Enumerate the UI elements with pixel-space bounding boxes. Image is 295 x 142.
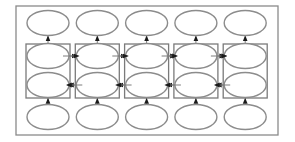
input-node <box>175 105 217 130</box>
forward-hidden-node <box>175 44 217 69</box>
forward-hidden-node <box>126 44 168 69</box>
input-node <box>224 105 266 130</box>
forward-hidden-node <box>27 44 69 69</box>
backward-hidden-node <box>224 73 266 98</box>
output-node <box>224 11 266 36</box>
bidirectional-rnn-diagram <box>0 0 295 142</box>
forward-hidden-node <box>76 44 118 69</box>
backward-hidden-node <box>76 73 118 98</box>
backward-hidden-node <box>126 73 168 98</box>
output-node <box>126 11 168 36</box>
backward-hidden-node <box>27 73 69 98</box>
output-node <box>76 11 118 36</box>
time-step-columns <box>26 11 267 130</box>
output-node <box>175 11 217 36</box>
forward-hidden-node <box>224 44 266 69</box>
input-node <box>27 105 69 130</box>
input-node <box>76 105 118 130</box>
input-node <box>126 105 168 130</box>
backward-hidden-node <box>175 73 217 98</box>
output-node <box>27 11 69 36</box>
